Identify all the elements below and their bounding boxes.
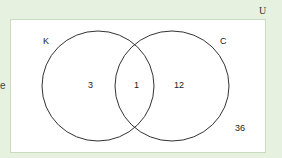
circle-c	[115, 31, 229, 141]
set-label-c: C	[220, 36, 227, 46]
venn-circles	[0, 0, 282, 158]
set-label-k: K	[43, 36, 49, 46]
region-c-only: 12	[174, 80, 184, 90]
region-intersection: 1	[134, 80, 139, 90]
region-outside: 36	[235, 123, 245, 133]
region-k-only: 3	[88, 80, 93, 90]
